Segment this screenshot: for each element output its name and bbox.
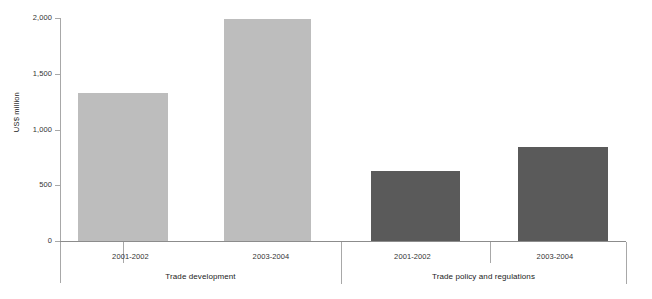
y-tick-label: 2,000	[0, 13, 52, 22]
category-label: 2003-2004	[484, 252, 626, 261]
y-tick-label: 500	[0, 180, 52, 189]
group-label: Trade development	[60, 272, 341, 281]
y-tick-label: 1,500	[0, 69, 52, 78]
bar	[78, 93, 168, 241]
bar	[518, 147, 608, 241]
bar	[371, 171, 460, 241]
category-label: 2001-2002	[60, 252, 201, 261]
category-label: 2001-2002	[341, 252, 484, 261]
y-tick-label: 1,000	[0, 125, 52, 134]
group-separator	[626, 242, 627, 284]
bar	[224, 19, 311, 241]
category-label: 2003-2004	[201, 252, 341, 261]
bars-layer	[60, 18, 626, 241]
y-tick-label: 0	[0, 236, 52, 245]
group-label: Trade policy and regulations	[341, 272, 626, 281]
x-axis-baseline	[60, 241, 626, 242]
bar-chart: US$ million 2,0001,5001,0005000 2001-200…	[0, 0, 652, 299]
